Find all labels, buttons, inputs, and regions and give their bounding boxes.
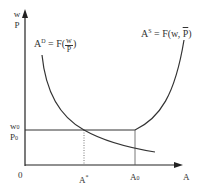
demand-curve <box>42 55 155 152</box>
y-axis-arrow-icon <box>22 9 28 18</box>
x-axis-label: A <box>183 172 190 182</box>
y-axis-label-bottom: P <box>12 19 22 31</box>
a0-label: A0 <box>130 172 140 183</box>
wage-level-label: w0 P0 <box>10 121 24 144</box>
supply-curve-label: AS = F(w, P) <box>141 26 192 39</box>
y-axis-label-top: w <box>12 10 22 19</box>
origin-label: 0 <box>18 170 23 180</box>
a-star-label: A* <box>79 172 89 185</box>
y-axis-label: w P <box>12 10 22 31</box>
supply-curve <box>135 40 184 130</box>
x-axis-arrow-icon <box>174 162 183 168</box>
wage-price-fraction: wP <box>65 37 73 54</box>
demand-curve-label: AD = F(wP) <box>34 36 76 54</box>
